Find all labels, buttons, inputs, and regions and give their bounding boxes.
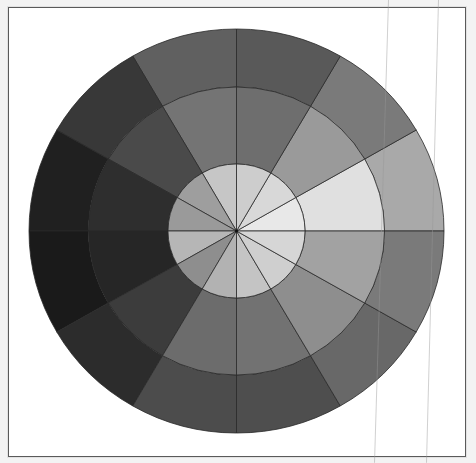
center-point — [235, 230, 238, 233]
figure-canvas — [0, 0, 476, 463]
gray-wheel-diagram — [0, 0, 476, 463]
